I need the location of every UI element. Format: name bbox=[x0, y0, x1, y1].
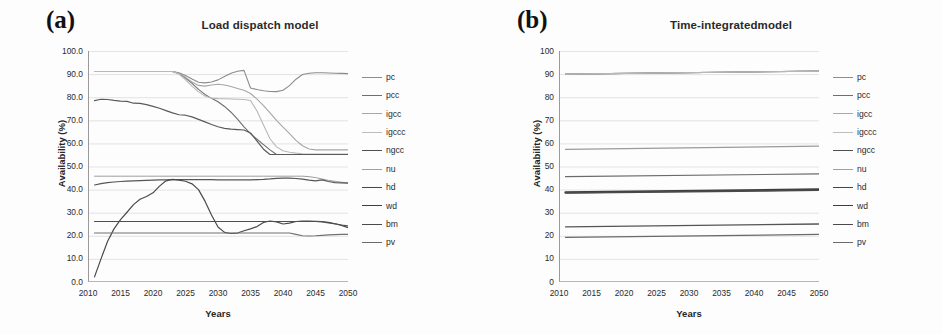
legend-swatch-hd-icon bbox=[362, 187, 382, 188]
x-tick-label: 2025 bbox=[169, 288, 203, 298]
legend-item-hd[interactable]: hd bbox=[833, 178, 877, 196]
series-line-bm bbox=[566, 224, 820, 227]
x-tick-label: 2025 bbox=[640, 288, 674, 298]
legend-label-pcc: pcc bbox=[386, 91, 399, 100]
legend-item-ngcc[interactable]: ngcc bbox=[362, 142, 406, 160]
panel-a-legend: pcpccigccigcccngccnuhdwdbmpv bbox=[362, 68, 406, 252]
legend-swatch-wd-icon bbox=[833, 205, 853, 206]
panel-a-plot-area bbox=[88, 51, 348, 282]
legend-item-igccc[interactable]: igccc bbox=[362, 123, 406, 141]
y-tick-label: 90 bbox=[511, 69, 554, 79]
series-line-igccc bbox=[95, 72, 349, 154]
y-tick-label: 0.0 bbox=[40, 277, 83, 287]
legend-swatch-pv-icon bbox=[833, 242, 853, 243]
series-line-bm bbox=[95, 221, 349, 225]
legend-item-bm[interactable]: bm bbox=[833, 215, 877, 233]
legend-item-pcc[interactable]: pcc bbox=[362, 86, 406, 104]
legend-swatch-igccc-icon bbox=[833, 132, 853, 133]
panel-b-plot-area bbox=[559, 51, 819, 282]
legend-label-igcc: igcc bbox=[857, 110, 872, 119]
legend-label-nu: nu bbox=[857, 165, 867, 174]
legend-label-hd: hd bbox=[386, 183, 396, 192]
legend-label-wd: wd bbox=[857, 202, 868, 211]
panel-b-svg bbox=[559, 51, 819, 282]
legend-label-ngcc: ngcc bbox=[857, 146, 875, 155]
legend-item-pc[interactable]: pc bbox=[362, 68, 406, 86]
legend-item-wd[interactable]: wd bbox=[362, 197, 406, 215]
panel-a: (a) Load dispatch model Availability (%)… bbox=[0, 0, 471, 334]
legend-swatch-hd-icon bbox=[833, 187, 853, 188]
legend-label-hd: hd bbox=[857, 183, 867, 192]
y-tick-label: 30.0 bbox=[40, 207, 83, 217]
legend-item-nu[interactable]: nu bbox=[833, 160, 877, 178]
y-tick-label: 20 bbox=[511, 230, 554, 240]
legend-label-bm: bm bbox=[857, 220, 869, 229]
legend-label-pv: pv bbox=[386, 238, 395, 247]
series-line-ngcc bbox=[566, 146, 820, 149]
x-tick-label: 2035 bbox=[234, 288, 268, 298]
legend-swatch-pv-icon bbox=[362, 242, 382, 243]
legend-item-hd[interactable]: hd bbox=[362, 178, 406, 196]
x-tick-label: 2030 bbox=[672, 288, 706, 298]
y-tick-label: 100 bbox=[511, 46, 554, 56]
y-tick-label: 90.0 bbox=[40, 69, 83, 79]
panel-b-tag: (b) bbox=[517, 6, 548, 34]
y-tick-label: 80 bbox=[511, 92, 554, 102]
x-tick-label: 2015 bbox=[575, 288, 609, 298]
series-line-igcc bbox=[95, 72, 349, 150]
panel-a-tag: (a) bbox=[46, 6, 75, 34]
y-tick-label: 40.0 bbox=[40, 184, 83, 194]
x-tick-label: 2040 bbox=[266, 288, 300, 298]
legend-swatch-igccc-icon bbox=[362, 132, 382, 133]
legend-label-nu: nu bbox=[386, 165, 396, 174]
y-tick-label: 80.0 bbox=[40, 92, 83, 102]
legend-label-igccc: igccc bbox=[386, 128, 406, 137]
x-tick-label: 2035 bbox=[705, 288, 739, 298]
legend-swatch-nu-icon bbox=[362, 169, 382, 170]
x-tick-label: 2050 bbox=[331, 288, 365, 298]
y-tick-label: 40 bbox=[511, 184, 554, 194]
series-line-pcc bbox=[95, 72, 349, 155]
panel-b-y-axis-label: Availability (%) bbox=[531, 94, 542, 214]
legend-item-pv[interactable]: pv bbox=[362, 234, 406, 252]
legend-item-igcc[interactable]: igcc bbox=[833, 105, 877, 123]
legend-item-pc[interactable]: pc bbox=[833, 68, 877, 86]
legend-item-pcc[interactable]: pcc bbox=[833, 86, 877, 104]
legend-label-pc: pc bbox=[857, 73, 866, 82]
y-tick-label: 60 bbox=[511, 138, 554, 148]
legend-item-ngcc[interactable]: ngcc bbox=[833, 142, 877, 160]
x-tick-label: 2040 bbox=[737, 288, 771, 298]
series-line-pv bbox=[566, 234, 820, 237]
y-tick-label: 70.0 bbox=[40, 115, 83, 125]
panel-b: (b) Time-integratedmodel Availability (%… bbox=[471, 0, 942, 334]
figure-two-panel-availability: (a) Load dispatch model Availability (%)… bbox=[0, 0, 942, 334]
y-tick-label: 50.0 bbox=[40, 161, 83, 171]
y-tick-label: 10.0 bbox=[40, 253, 83, 263]
legend-swatch-wd-icon bbox=[362, 205, 382, 206]
x-tick-label: 2030 bbox=[201, 288, 235, 298]
x-tick-label: 2010 bbox=[542, 288, 576, 298]
series-line-ngcc bbox=[95, 99, 349, 154]
y-tick-label: 100.0 bbox=[40, 46, 83, 56]
x-tick-label: 2020 bbox=[607, 288, 641, 298]
legend-label-wd: wd bbox=[386, 202, 397, 211]
legend-label-pc: pc bbox=[386, 73, 395, 82]
x-tick-label: 2010 bbox=[71, 288, 105, 298]
series-line-wd bbox=[95, 179, 349, 276]
x-tick-label: 2045 bbox=[299, 288, 333, 298]
legend-item-igcc[interactable]: igcc bbox=[362, 105, 406, 123]
legend-item-nu[interactable]: nu bbox=[362, 160, 406, 178]
panel-b-title: Time-integratedmodel bbox=[581, 19, 881, 31]
legend-item-pv[interactable]: pv bbox=[833, 234, 877, 252]
series-line-nu bbox=[566, 174, 820, 177]
legend-label-igccc: igccc bbox=[857, 128, 877, 137]
series-line-pc bbox=[95, 70, 349, 91]
legend-label-bm: bm bbox=[386, 220, 398, 229]
x-tick-label: 2020 bbox=[136, 288, 170, 298]
legend-item-bm[interactable]: bm bbox=[362, 215, 406, 233]
y-tick-label: 60.0 bbox=[40, 138, 83, 148]
legend-item-wd[interactable]: wd bbox=[833, 197, 877, 215]
legend-swatch-igcc-icon bbox=[362, 113, 382, 114]
legend-item-igccc[interactable]: igccc bbox=[833, 123, 877, 141]
series-line-igccc bbox=[566, 71, 820, 74]
